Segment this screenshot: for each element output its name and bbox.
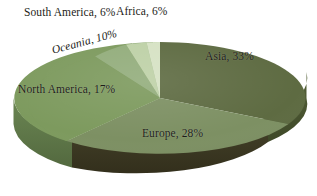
pie-chart-figure: Africa, 6% South America, 6% Oceania, 10… [0,0,317,196]
pie-label-north-america: North America, 17% [18,83,115,96]
pie-chart-stage: Africa, 6% South America, 6% Oceania, 10… [0,0,317,196]
pie-label-africa: Africa, 6% [116,5,167,18]
pie-chart-svg [0,0,317,196]
pie-label-south-america: South America, 6% [24,6,120,19]
pie-label-asia: Asia, 33% [205,50,254,63]
pie-label-europe: Europe, 28% [142,127,203,140]
